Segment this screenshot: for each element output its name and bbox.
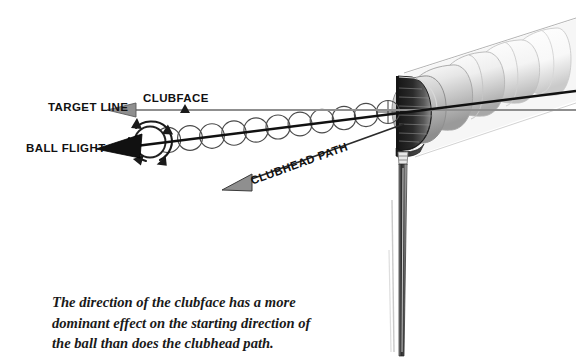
clubface-pointer — [180, 104, 190, 113]
caption-line-3: the ball than does the clubhead path. — [52, 333, 382, 354]
figure-caption: The direction of the clubface has a more… — [52, 292, 382, 354]
caption-line-1: The direction of the clubface has a more — [52, 292, 382, 313]
label-clubface: CLUBFACE — [143, 92, 209, 104]
label-target-line: TARGET LINE — [48, 101, 128, 113]
golf-impact-diagram: TARGET LINE BALL FLIGHT CLUBFACE CLUBHEA… — [0, 0, 576, 362]
club-shaft — [389, 152, 408, 356]
caption-line-2: dominant effect on the starting directio… — [52, 313, 382, 334]
ball-trail — [155, 101, 399, 153]
label-ball-flight: BALL FLIGHT — [26, 142, 106, 154]
